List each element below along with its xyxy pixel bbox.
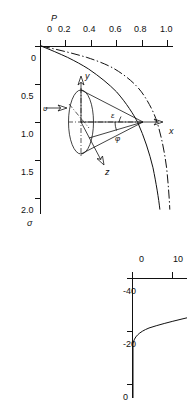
z-axis-arrowhead xyxy=(97,156,104,165)
rotated-figure-canvas: 0 10 20 30 P(ε) -40 -20 0 xyxy=(0,0,187,418)
main-plot-panel: 0 0.2 0.4 0.6 0.8 1.0 P 0 0.5 1.0 1.5 2.… xyxy=(7,12,179,227)
inset-label-phi: φ xyxy=(115,134,120,143)
epsilon-angle-arc xyxy=(119,117,121,123)
inset-label-velocity: υ xyxy=(43,104,47,113)
top-plot-curve xyxy=(111,238,187,418)
inset-label-y: y xyxy=(85,71,90,81)
inset-cone-geometry: x y z ε φ υ xyxy=(43,64,173,184)
z-axis-line xyxy=(81,122,101,160)
base-projection-line xyxy=(69,104,89,128)
phi-angle-arc xyxy=(115,122,117,131)
top-plot-panel: 0 10 20 30 P(ε) -40 -20 0 xyxy=(111,238,187,418)
inset-label-epsilon: ε xyxy=(111,111,115,120)
inset-label-z: z xyxy=(105,167,110,177)
inset-cone-drawing xyxy=(43,64,173,184)
figure-root: 0 10 20 30 P(ε) -40 -20 0 xyxy=(0,0,187,418)
inset-label-x: x xyxy=(169,126,174,136)
